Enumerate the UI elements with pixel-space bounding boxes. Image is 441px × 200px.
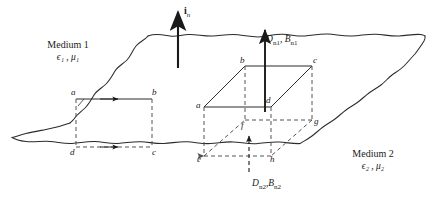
cube-vertex-a: a (196, 100, 201, 110)
medium-1-params: ϵ₁ , μ₁ (20, 52, 116, 63)
normal-vector-label: in (184, 5, 190, 19)
rect-vertex-b: b (152, 87, 157, 97)
cube-vertex-e: e (197, 154, 201, 164)
cube-vertex-h: h (270, 154, 275, 164)
normal-vector-subscript: n (187, 11, 191, 19)
cube-vertex-f: f (241, 120, 244, 130)
field-lower-label: Dn2,Bn2 (252, 178, 281, 191)
field-lower-b-sub: n2 (274, 183, 281, 191)
rect-vertex-d: d (70, 147, 75, 157)
medium-2-name: Medium 2 (352, 148, 393, 159)
field-upper-label: Dn1, Bn1 (266, 34, 297, 47)
field-upper-d: D (266, 34, 273, 44)
field-upper-d-sub: n1 (273, 39, 280, 47)
field-upper-b-sub: n1 (290, 39, 297, 47)
medium-1-label: Medium 1 ϵ₁ , μ₁ (20, 39, 116, 62)
cube-vertex-d: d (266, 95, 271, 105)
medium-2-label: Medium 2 ϵ₂ , μ₂ (325, 148, 421, 171)
rect-vertex-c: c (152, 147, 156, 157)
cube-vertex-b: b (240, 55, 245, 65)
medium-1-name: Medium 1 (47, 39, 88, 50)
cube-vertex-c: c (313, 55, 317, 65)
contour-rectangle (76, 99, 152, 147)
rect-vertex-a: a (71, 87, 76, 97)
field-arrows (249, 30, 265, 172)
field-lower-d: D (252, 178, 259, 188)
field-lower-d-sub: n2 (259, 183, 266, 191)
cube-vertex-g: g (314, 116, 319, 126)
medium-2-params: ϵ₂ , μ₂ (325, 161, 421, 172)
physics-boundary-figure: Medium 1 ϵ₁ , μ₁ Medium 2 ϵ₂ , μ₂ in Dn1… (0, 0, 441, 200)
